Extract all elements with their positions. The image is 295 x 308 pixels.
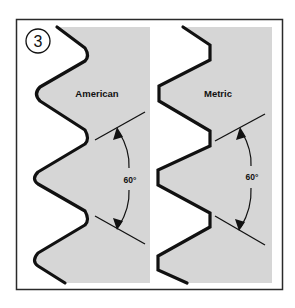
- thread-comparison-figure: American 60° Metric 60° 3: [0, 0, 295, 308]
- figure-number-badge: 3: [26, 29, 50, 53]
- american-angle-label: 60°: [124, 175, 137, 185]
- metric-title: Metric: [204, 88, 232, 99]
- metric-angle-label: 60°: [246, 172, 259, 182]
- panel-american: American 60°: [35, 27, 151, 283]
- american-title: American: [75, 88, 118, 99]
- panel-metric: Metric 60°: [158, 27, 272, 283]
- figure-number: 3: [34, 33, 43, 50]
- metric-thread-body: [158, 27, 272, 283]
